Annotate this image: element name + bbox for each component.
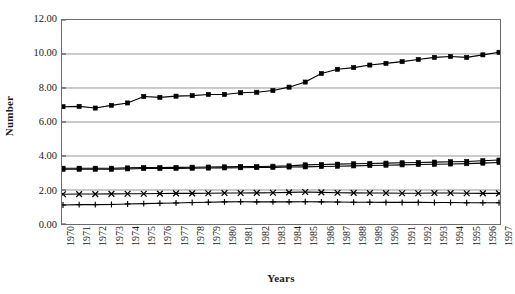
data-point-marker — [432, 55, 436, 59]
y-tick-label: 12.00 — [33, 14, 57, 24]
data-point-marker — [464, 200, 470, 206]
x-tick-label: 1994 — [455, 226, 465, 248]
x-tick-label: 1980 — [228, 226, 238, 248]
data-point-marker — [206, 92, 210, 96]
data-point-marker — [174, 94, 178, 98]
data-point-marker — [238, 199, 244, 205]
x-tick-label: 1996 — [488, 226, 498, 248]
data-point-marker — [448, 54, 452, 58]
x-tick-label: 1990 — [390, 226, 400, 248]
data-point-marker — [158, 95, 162, 99]
data-point-marker — [302, 199, 308, 205]
x-tick-label: 1987 — [342, 226, 352, 248]
data-point-marker — [77, 167, 81, 171]
x-axis-tick-labels: 1970197119721973197419751976197719781979… — [61, 226, 501, 270]
data-point-marker — [286, 199, 292, 205]
data-point-marker — [400, 60, 404, 64]
x-tick-label: 1992 — [423, 226, 433, 248]
x-tick-label: 1995 — [472, 226, 482, 248]
data-point-marker — [206, 166, 210, 170]
data-point-marker — [497, 50, 500, 54]
data-point-marker — [384, 163, 388, 167]
data-point-marker — [255, 165, 259, 169]
data-point-marker — [173, 200, 179, 206]
x-tick-label: 1986 — [326, 226, 336, 248]
x-tick-label: 1997 — [504, 226, 514, 248]
data-point-marker — [383, 199, 389, 205]
data-point-marker — [351, 199, 357, 205]
data-point-marker — [205, 199, 211, 205]
data-point-marker — [368, 163, 372, 167]
data-point-marker — [448, 162, 452, 166]
x-tick-label: 1982 — [261, 226, 271, 248]
data-point-marker — [62, 105, 65, 109]
data-point-marker — [190, 166, 194, 170]
data-point-marker — [496, 200, 500, 206]
x-tick-label: 1988 — [358, 226, 368, 248]
data-point-marker — [416, 57, 420, 61]
data-point-marker — [239, 91, 243, 95]
data-point-marker — [465, 55, 469, 59]
data-point-marker — [303, 165, 307, 169]
series-line — [63, 52, 499, 108]
data-point-marker — [221, 199, 227, 205]
data-point-marker — [92, 202, 98, 208]
data-point-marker — [142, 167, 146, 171]
y-axis-title: Number — [0, 0, 18, 232]
data-point-marker — [62, 167, 65, 171]
data-point-marker — [368, 63, 372, 67]
x-tick-label: 1973 — [115, 226, 125, 248]
y-axis-title-label: Number — [3, 96, 15, 136]
y-tick-label: 2.00 — [39, 186, 57, 196]
data-point-marker — [125, 101, 129, 105]
data-point-marker — [222, 166, 226, 170]
data-point-marker — [335, 67, 339, 71]
data-point-marker — [77, 104, 81, 108]
data-point-marker — [62, 202, 66, 208]
line-chart: Number 0.002.004.006.008.0010.0012.00 19… — [0, 0, 515, 294]
data-point-marker — [109, 103, 113, 107]
y-tick-label: 8.00 — [39, 83, 57, 93]
data-point-marker — [254, 199, 260, 205]
data-point-marker — [255, 90, 259, 94]
x-tick-label: 1979 — [212, 226, 222, 248]
data-point-marker — [93, 167, 97, 171]
y-axis-tick-labels: 0.002.004.006.008.0010.0012.00 — [18, 0, 61, 232]
data-point-marker — [174, 166, 178, 170]
data-point-marker — [432, 162, 436, 166]
data-point-marker — [497, 160, 500, 164]
data-point-marker — [303, 80, 307, 84]
data-point-marker — [157, 200, 163, 206]
x-tick-label: 1972 — [98, 226, 108, 248]
data-point-marker — [415, 199, 421, 205]
data-point-marker — [239, 166, 243, 170]
data-point-marker — [76, 202, 82, 208]
data-point-marker — [222, 92, 226, 96]
data-point-marker — [448, 200, 454, 206]
data-point-marker — [190, 94, 194, 98]
x-tick-label: 1974 — [131, 226, 141, 248]
x-axis-title: Years — [61, 272, 501, 284]
data-point-marker — [367, 199, 373, 205]
x-tick-label: 1978 — [196, 226, 206, 248]
x-tick-label: 1970 — [66, 226, 76, 248]
x-tick-label: 1975 — [147, 226, 157, 248]
x-tick-label: 1983 — [277, 226, 287, 248]
data-point-marker — [352, 66, 356, 70]
data-point-marker — [108, 201, 114, 207]
x-tick-label: 1976 — [163, 226, 173, 248]
x-tick-label: 1977 — [180, 226, 190, 248]
data-point-marker — [465, 162, 469, 166]
data-point-marker — [399, 199, 405, 205]
data-point-marker — [125, 167, 129, 171]
data-point-marker — [318, 199, 324, 205]
data-point-marker — [141, 201, 147, 207]
plot-svg — [62, 20, 500, 224]
x-tick-label: 1971 — [82, 226, 92, 248]
x-tick-label: 1985 — [309, 226, 319, 248]
data-point-marker — [109, 167, 113, 171]
data-point-marker — [270, 199, 276, 205]
data-point-marker — [352, 164, 356, 168]
data-point-marker — [287, 165, 291, 169]
data-point-marker — [142, 94, 146, 98]
